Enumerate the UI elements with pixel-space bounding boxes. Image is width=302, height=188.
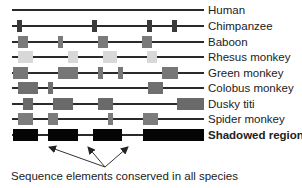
arrows [0, 0, 302, 188]
arrow [105, 147, 128, 167]
diagram-caption: Sequence elements conserved in all speci… [11, 170, 238, 182]
